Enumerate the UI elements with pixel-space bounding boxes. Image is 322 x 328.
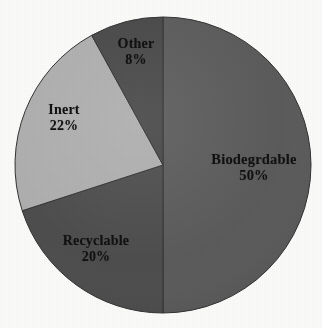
slice-label-biodegradable-name: Biodegrdable xyxy=(196,151,312,167)
slice-label-inert-value: 22% xyxy=(27,118,101,134)
slice-label-inert: Inert 22% xyxy=(27,102,101,133)
slice-label-other-value: 8% xyxy=(98,52,174,68)
slice-label-biodegradable: Biodegrdable 50% xyxy=(196,151,312,183)
slice-label-other-name: Other xyxy=(98,36,174,52)
slice-label-recyclable-value: 20% xyxy=(44,249,148,265)
slice-label-other: Other 8% xyxy=(98,36,174,67)
slice-label-recyclable: Recyclable 20% xyxy=(44,233,148,264)
slice-label-biodegradable-value: 50% xyxy=(196,167,312,183)
slice-label-recyclable-name: Recyclable xyxy=(44,233,148,249)
pie-chart-figure: Biodegrdable 50% Recyclable 20% Inert 22… xyxy=(0,0,322,328)
slice-label-inert-name: Inert xyxy=(27,102,101,118)
